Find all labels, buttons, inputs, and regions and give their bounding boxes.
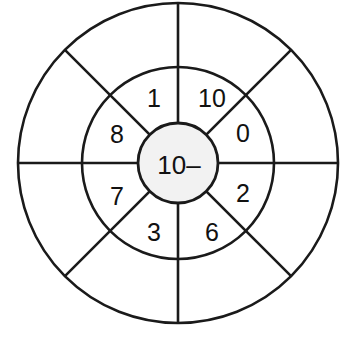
hub-label: 10– (157, 150, 201, 180)
middle-sector-label-top-left[interactable]: 1 (147, 84, 161, 112)
wheel-diagram: 10 0 2 6 3 7 8 1 10– (0, 0, 347, 344)
middle-sector-label-bottom-left[interactable]: 3 (147, 218, 161, 246)
subtraction-wheel-figure: 10 0 2 6 3 7 8 1 10– (0, 0, 347, 344)
middle-sector-label-right-lower[interactable]: 2 (236, 179, 250, 207)
middle-sector-label-left-lower[interactable]: 7 (110, 182, 124, 210)
middle-sector-label-bottom-right[interactable]: 6 (205, 218, 219, 246)
middle-sector-label-left-upper[interactable]: 8 (110, 120, 124, 148)
middle-sector-label-right-upper[interactable]: 0 (236, 119, 250, 147)
middle-sector-label-top-right[interactable]: 10 (198, 84, 226, 112)
